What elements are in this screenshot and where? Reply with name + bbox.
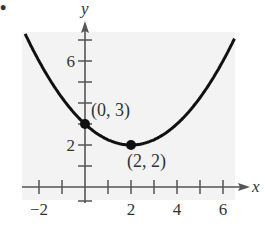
point-label: (0, 3) (91, 100, 130, 121)
x-tick-label: −2 (30, 200, 48, 219)
problem-marker: • (0, 0, 6, 18)
parabola-chart: • −224626 (0, 3)(2, 2) x y (0, 0, 265, 231)
point-marker (126, 140, 136, 150)
point-marker (80, 119, 90, 129)
x-tick-label: 4 (173, 200, 182, 219)
x-tick-label: 2 (127, 200, 136, 219)
x-axis-label: x (251, 177, 260, 196)
x-tick-label: 6 (219, 200, 228, 219)
point-label: (2, 2) (127, 151, 166, 172)
y-tick-label: 6 (67, 52, 76, 71)
y-axis-label: y (79, 0, 89, 18)
y-tick-label: 2 (67, 136, 76, 155)
